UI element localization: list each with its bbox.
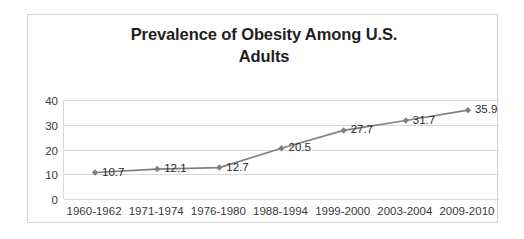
x-axis-tick-label: 1971-1974 bbox=[129, 205, 184, 217]
x-axis-tick-label: 1976-1980 bbox=[191, 205, 246, 217]
x-axis-tick-label: 2009-2010 bbox=[439, 205, 494, 217]
data-point-label: 10.7 bbox=[102, 166, 124, 178]
chart-container: Prevalence of Obesity Among U.S. Adults … bbox=[27, 14, 498, 223]
data-point-label: 12.7 bbox=[226, 161, 248, 173]
x-axis-tick-label: 1988-1994 bbox=[253, 205, 308, 217]
data-point-label: 27.7 bbox=[351, 123, 373, 135]
y-axis-tick-label: 20 bbox=[45, 145, 58, 157]
line-series bbox=[64, 86, 499, 213]
data-point-marker bbox=[465, 107, 471, 113]
top-cutoff-text bbox=[0, 0, 108, 4]
y-axis-tick-label: 40 bbox=[45, 95, 58, 107]
top-cutoff-text-row bbox=[0, 0, 524, 4]
x-axis-tick-label: 2003-2004 bbox=[377, 205, 432, 217]
data-point-marker bbox=[278, 145, 284, 151]
data-point-marker bbox=[403, 117, 409, 123]
data-point-marker bbox=[340, 127, 346, 133]
x-axis-labels-group: 1960-19621971-19741976-19801988-19941999… bbox=[63, 205, 498, 221]
chart-title: Prevalence of Obesity Among U.S. Adults bbox=[58, 23, 470, 67]
data-point-marker bbox=[154, 166, 160, 172]
y-axis-tick-label: 0 bbox=[52, 194, 58, 206]
x-axis-tick-label: 1960-1962 bbox=[67, 205, 122, 217]
data-point-label: 31.7 bbox=[413, 114, 435, 126]
x-axis-tick-label: 1999-2000 bbox=[315, 205, 370, 217]
data-point-label: 20.5 bbox=[289, 141, 311, 153]
y-axis-tick-label: 30 bbox=[45, 120, 58, 132]
data-point-marker bbox=[216, 164, 222, 170]
plot-area: 010203040 10.712.112.720.527.731.735.9 bbox=[63, 100, 498, 199]
data-point-label: 35.9 bbox=[475, 103, 497, 115]
data-point-marker bbox=[92, 169, 98, 175]
y-axis-tick-label: 10 bbox=[45, 169, 58, 181]
data-point-label: 12.1 bbox=[164, 162, 186, 174]
chart-title-line-2: Adults bbox=[58, 45, 470, 67]
chart-title-line-1: Prevalence of Obesity Among U.S. bbox=[58, 23, 470, 45]
